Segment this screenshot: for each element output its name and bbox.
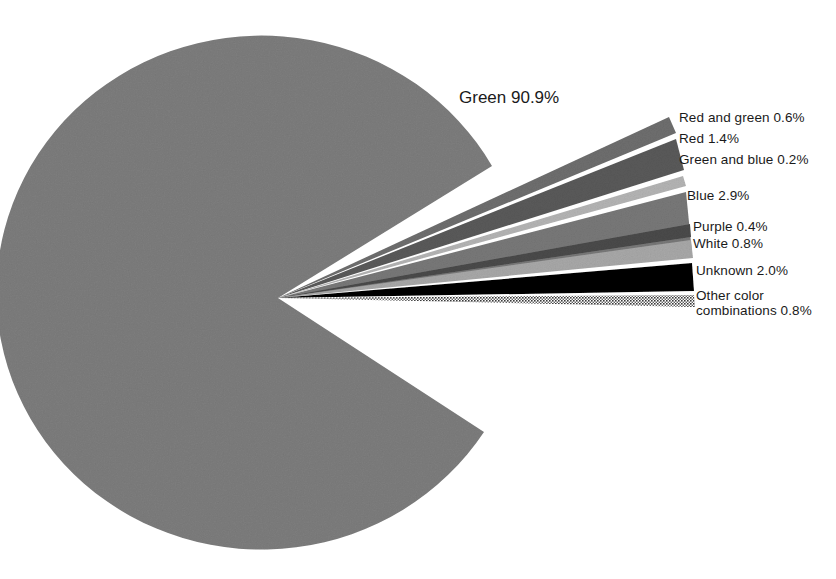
slice-label-other-line2: combinations 0.8% bbox=[696, 303, 812, 318]
slice-label-green-and-blue: Green and blue 0.2% bbox=[679, 152, 809, 167]
pie-chart-figure: Green 90.9% Red and green 0.6% Red 1.4% … bbox=[0, 0, 836, 579]
slice-label-white: White 0.8% bbox=[693, 236, 763, 251]
slice-label-purple: Purple 0.4% bbox=[693, 219, 768, 234]
slice-label-red-and-green: Red and green 0.6% bbox=[679, 110, 805, 125]
slice-label-other-line1: Other color bbox=[696, 288, 764, 303]
slice-label-blue: Blue 2.9% bbox=[687, 188, 749, 203]
slice-label-red: Red 1.4% bbox=[679, 131, 739, 146]
slice-label-green: Green 90.9% bbox=[459, 88, 559, 108]
slice-label-unknown: Unknown 2.0% bbox=[696, 263, 788, 278]
